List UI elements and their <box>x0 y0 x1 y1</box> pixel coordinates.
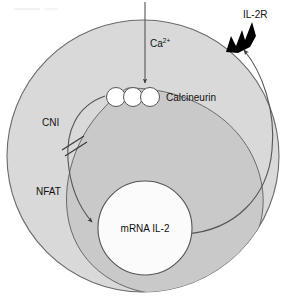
calcineurin-subunit <box>107 88 126 107</box>
diagram-canvas: IL-2R Ca2+ Calcineurin CNI NFAT mRNA IL-… <box>0 0 291 306</box>
calcineurin-subunit <box>141 88 160 107</box>
scan-artifact <box>14 8 58 10</box>
calcineurin-subunit <box>124 88 143 107</box>
label-calcineurin: Calcineurin <box>166 92 216 103</box>
calcium-superscript: 2+ <box>163 37 171 44</box>
label-cni: CNI <box>42 117 59 128</box>
calcineurin-complex <box>107 88 160 107</box>
label-il-2r: IL-2R <box>243 9 267 20</box>
pathway-diagram: IL-2R Ca2+ Calcineurin CNI NFAT mRNA IL-… <box>0 0 291 306</box>
label-mrna-il-2: mRNA IL-2 <box>121 223 170 234</box>
label-nfat: NFAT <box>36 186 61 197</box>
il-2-receptor-arrowhead <box>226 22 256 53</box>
calcium-text: Ca <box>150 38 163 49</box>
